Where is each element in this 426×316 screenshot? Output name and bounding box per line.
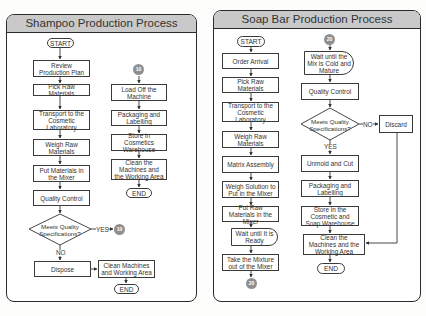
soap-step-take-mixture: Take the Mixture out of the Mixer xyxy=(222,254,279,271)
shampoo-step-transport: Transport to the Cosmetic Laboratory xyxy=(33,110,90,130)
soap-step-wait-ready: Wait until It is Ready xyxy=(231,228,278,246)
shampoo-step-clean: Clean the Machines and the Working Area xyxy=(111,159,167,180)
soap-step-quality-control: Quality Control xyxy=(301,83,359,100)
soap-step-put-mixer: Put Raw Materials in the Mixer xyxy=(222,206,279,222)
shampoo-step-weigh: Weigh Raw Materials xyxy=(33,139,90,156)
soap-step-weigh-solution: Weigh Solution to Put in the Mixer xyxy=(222,181,279,198)
soap-connector-out: 20 xyxy=(246,278,257,289)
shampoo-step-review-plan: Review Production Plan xyxy=(33,60,90,77)
soap-step-wait-cold: Wait until the Mix is Cold and Mature xyxy=(304,51,354,75)
soap-decision-quality: Meets Quality Specifications? xyxy=(307,117,353,132)
shampoo-step-load-off: Load Off the Machine xyxy=(111,84,167,101)
soap-step-matrix-assembly: Matrix Assembly xyxy=(222,156,279,173)
shampoo-step-store: Store in Cosmetics Warehouse xyxy=(111,134,167,151)
soap-step-packaging: Packaging and Labelling xyxy=(301,180,359,197)
shampoo-connector-out: 10 xyxy=(114,224,125,235)
soap-step-discard: Discard xyxy=(379,115,413,133)
soap-step-clean: Clean the Machines and the Working Area xyxy=(303,234,365,255)
soap-no-label: NO xyxy=(363,121,373,128)
shampoo-end-left: END xyxy=(114,284,139,294)
soap-end: END xyxy=(317,263,345,274)
soap-start: START xyxy=(237,36,265,47)
soap-step-store: Store in the Cosmetic and Soap Warehouse xyxy=(301,206,359,226)
soap-step-pick-raw: Pick Raw Materials xyxy=(222,77,279,93)
shampoo-yes-label: YES xyxy=(96,226,109,233)
shampoo-connector-in: 10 xyxy=(133,64,144,75)
soap-step-order-arrival: Order Arrival xyxy=(222,53,279,69)
soap-step-unmold: Unmold and Cut xyxy=(301,155,359,172)
shampoo-step-put-mixer: Put Materials in the Mixer xyxy=(33,165,90,182)
shampoo-step-quality-control: Quality Control xyxy=(33,190,90,206)
shampoo-start: START xyxy=(47,38,74,48)
soap-step-weigh: Weigh Raw Materials xyxy=(222,131,279,148)
shampoo-panel: Shampoo Production Process xyxy=(6,14,197,302)
soap-step-transport: Transport to the Cosmetic Laboratory xyxy=(222,102,279,122)
shampoo-no-label: NO xyxy=(56,249,66,256)
shampoo-step-clean-short: Clean Machines and Working Area xyxy=(98,260,155,278)
soap-connector-in: 20 xyxy=(324,34,335,45)
shampoo-step-pick-raw: Pick Raw Materials xyxy=(33,84,90,96)
shampoo-end-right: END xyxy=(126,188,152,198)
shampoo-title: Shampoo Production Process xyxy=(7,15,196,33)
soap-title: Soap Bar Production Process xyxy=(214,11,420,29)
shampoo-step-packaging: Packaging and Labelling xyxy=(111,110,167,126)
shampoo-decision-quality: Meets Quality Specifications? xyxy=(37,222,83,237)
shampoo-step-dispose: Dispose xyxy=(34,261,91,277)
soap-yes-label: YES xyxy=(324,143,337,150)
